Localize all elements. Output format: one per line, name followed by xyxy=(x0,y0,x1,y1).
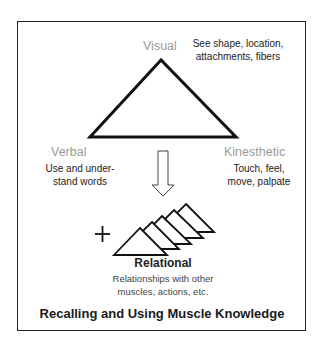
relational-description: Relationships with other muscles, action… xyxy=(83,272,243,298)
kinesthetic-desc-line-1: Touch, feel, xyxy=(214,162,304,175)
kinesthetic-desc-line-2: move, palpate xyxy=(214,175,304,188)
relational-desc-line-1: Relationships with other xyxy=(83,272,243,285)
visual-label: Visual xyxy=(143,39,177,53)
verbal-description: Use and under- stand words xyxy=(30,162,130,188)
diagram-title: Recalling and Using Muscle Knowledge xyxy=(17,306,307,321)
visual-desc-line-2: attachments, fibers xyxy=(188,50,288,63)
visual-desc-line-1: See shape, location, xyxy=(188,37,288,50)
main-triangle xyxy=(90,60,236,137)
verbal-desc-line-2: stand words xyxy=(30,175,130,188)
relational-desc-line-2: muscles, actions, etc. xyxy=(83,285,243,298)
plus-icon xyxy=(95,226,110,242)
down-arrow-icon xyxy=(152,151,174,196)
kinesthetic-label: Kinesthetic xyxy=(224,145,285,159)
visual-description: See shape, location, attachments, fibers xyxy=(188,37,288,63)
stacked-triangles-icon xyxy=(114,204,214,255)
verbal-label: Verbal xyxy=(51,145,86,159)
verbal-desc-line-1: Use and under- xyxy=(30,162,130,175)
relational-label: Relational xyxy=(113,256,213,270)
kinesthetic-description: Touch, feel, move, palpate xyxy=(214,162,304,188)
